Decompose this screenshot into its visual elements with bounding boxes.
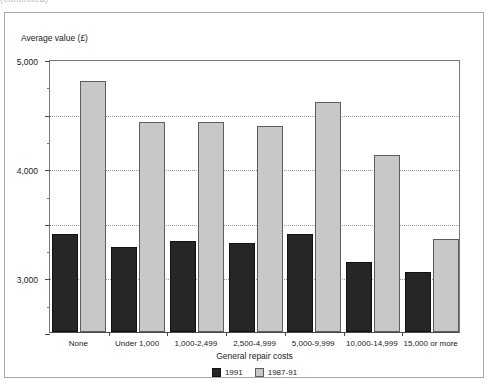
x-axis-tick bbox=[285, 332, 286, 336]
y-axis-minor-tick bbox=[47, 307, 50, 308]
y-axis-tick: 5,000 bbox=[45, 61, 50, 62]
y-axis-tick-label: 4,000 bbox=[17, 166, 38, 176]
bar-1987-91 bbox=[139, 122, 165, 332]
gridline bbox=[50, 116, 459, 117]
y-axis-tick: 3,000 bbox=[45, 170, 50, 171]
y-axis-tick: 1,000 bbox=[45, 279, 50, 280]
bar-1991 bbox=[287, 234, 313, 332]
legend-swatch-icon bbox=[212, 368, 221, 377]
x-axis-category-label: 2,500-4,999 bbox=[233, 339, 276, 348]
x-axis-tick bbox=[402, 332, 403, 336]
plot-area: 5,0004,0003,0002,0001,0000 bbox=[49, 60, 460, 333]
legend-swatch-icon bbox=[255, 368, 264, 377]
bar-1987-91 bbox=[198, 122, 224, 332]
x-axis-category-label: 5,000-9,999 bbox=[292, 339, 335, 348]
x-axis-category-label: None bbox=[69, 339, 88, 348]
x-axis-category-label: Under 1,000 bbox=[115, 339, 159, 348]
legend-label: 1991 bbox=[225, 368, 243, 377]
x-axis-category-label: 10,000-14,999 bbox=[346, 339, 398, 348]
bar-1991 bbox=[346, 262, 372, 332]
x-axis-tick bbox=[226, 332, 227, 336]
x-axis-tick bbox=[109, 332, 110, 336]
y-axis-tick: 2,000 bbox=[45, 225, 50, 226]
legend-label: 1987-91 bbox=[268, 368, 297, 377]
x-axis-tick bbox=[344, 332, 345, 336]
y-axis-tick-label: 3,000 bbox=[17, 275, 38, 285]
x-axis-category-label: 1,000-2,499 bbox=[174, 339, 217, 348]
x-axis-category-label: 15,000 or more bbox=[404, 339, 458, 348]
y-axis-tick: 0 bbox=[45, 334, 50, 335]
bar-1987-91 bbox=[257, 126, 283, 332]
y-axis-title: Average value (£) bbox=[21, 33, 88, 43]
chart-figure-frame: Average value (£) 5,0004,0003,0002,0001,… bbox=[4, 12, 484, 378]
y-axis-tick-label: 5,000 bbox=[17, 57, 38, 67]
clipped-caption: (continued) bbox=[0, 0, 492, 6]
y-axis-tick: 4,000 bbox=[45, 116, 50, 117]
bar-1991 bbox=[405, 272, 431, 332]
bar-1991 bbox=[170, 241, 196, 332]
bar-1991 bbox=[229, 243, 255, 332]
legend-item-1987-91: 1987-91 bbox=[255, 368, 297, 377]
bar-1991 bbox=[52, 234, 78, 332]
x-axis-title: General repair costs bbox=[49, 351, 460, 361]
y-axis-minor-tick bbox=[47, 143, 50, 144]
y-axis-minor-tick bbox=[47, 252, 50, 253]
legend-item-1991: 1991 bbox=[212, 368, 243, 377]
bar-1991 bbox=[111, 247, 137, 332]
bar-1987-91 bbox=[80, 81, 106, 332]
y-axis-minor-tick bbox=[47, 88, 50, 89]
chart-legend: 1991 1987-91 bbox=[49, 368, 460, 377]
bar-1987-91 bbox=[433, 239, 459, 332]
x-axis-tick bbox=[167, 332, 168, 336]
bar-1987-91 bbox=[374, 155, 400, 332]
y-axis-minor-tick bbox=[47, 198, 50, 199]
bar-1987-91 bbox=[315, 102, 341, 332]
